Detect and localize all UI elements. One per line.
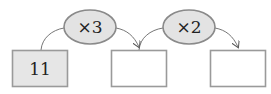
- start-value-box: 11: [13, 51, 68, 87]
- middle-answer-box[interactable]: [112, 51, 167, 87]
- connector-arc-1-in: [41, 28, 64, 50]
- connector-arc-2-in: [139, 28, 163, 50]
- end-answer-box[interactable]: [211, 51, 266, 87]
- start-value: 11: [29, 59, 51, 79]
- connector-arc-1-out: [116, 28, 139, 47]
- function-machine-diagram: ×3 ×2 11: [0, 0, 271, 94]
- operation-multiply-3: ×3: [64, 10, 116, 44]
- operation-label: ×3: [77, 17, 102, 37]
- operation-multiply-2: ×2: [163, 10, 215, 44]
- operation-label: ×2: [176, 17, 201, 37]
- connector-arc-2-out: [215, 28, 238, 47]
